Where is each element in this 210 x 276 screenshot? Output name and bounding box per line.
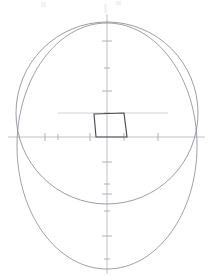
top-left-speck-artifact: [41, 2, 46, 7]
face-construction-drawing: [0, 0, 210, 276]
nose-trapezoid: [94, 113, 127, 137]
face-construction-canvas: [0, 0, 210, 276]
top-right-speck-artifact: [116, 1, 121, 5]
top-center-smudge-artifact: [104, 4, 107, 13]
